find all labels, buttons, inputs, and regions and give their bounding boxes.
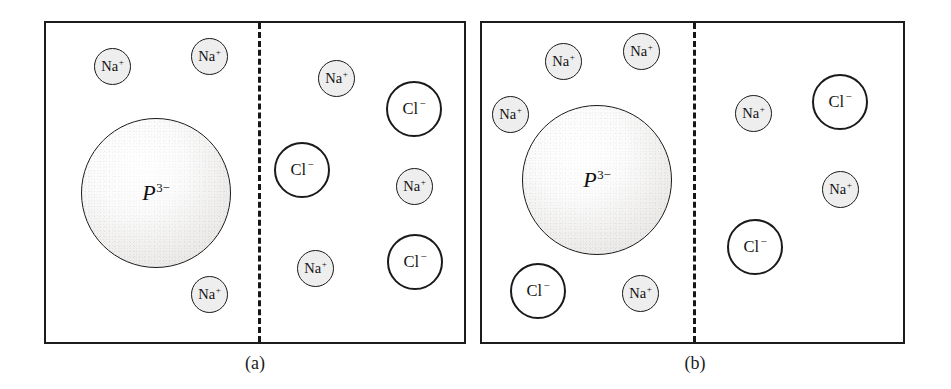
panel-b-container: Na+Na+Na+P3−Cl−Na+ Na+Cl−Na+Cl− — [480, 21, 905, 344]
ion-charge: 3− — [156, 181, 170, 195]
ion-charge: + — [570, 52, 575, 62]
ion-charge: + — [847, 180, 852, 190]
ion-label: Na+ — [629, 286, 652, 301]
ion-label: Cl− — [526, 283, 549, 300]
ion-charge: + — [322, 259, 327, 269]
ion-label: Na+ — [829, 182, 852, 197]
panel-a-caption: (a) — [225, 353, 285, 374]
sodium-ion: Na+ — [492, 96, 529, 133]
sodium-ion: Na+ — [318, 60, 355, 97]
ion-label: P3− — [142, 182, 170, 204]
ion-charge: + — [216, 47, 221, 57]
protein-ion: P3− — [81, 118, 231, 268]
chloride-ion: Cl− — [727, 219, 783, 275]
ion-label: Cl− — [402, 101, 425, 118]
ion-charge: + — [517, 105, 522, 115]
chloride-ion: Cl− — [387, 234, 443, 290]
ion-label: Cl− — [743, 239, 766, 256]
protein-ion: P3− — [522, 105, 672, 255]
chloride-ion: Cl− — [386, 81, 442, 137]
ion-label: Cl− — [828, 94, 851, 111]
ion-charge: − — [419, 97, 425, 109]
ion-charge: + — [119, 57, 124, 67]
ion-charge: − — [307, 158, 313, 170]
ion-charge: + — [421, 177, 426, 187]
semipermeable-membrane-a — [258, 23, 261, 342]
chloride-ion: Cl− — [510, 263, 566, 319]
ion-charge: − — [760, 235, 766, 247]
sodium-ion: Na+ — [545, 43, 582, 80]
sodium-ion: Na+ — [822, 171, 859, 208]
ion-label: Na+ — [403, 179, 426, 194]
ion-charge: − — [420, 250, 426, 262]
panel-b-caption: (b) — [665, 353, 725, 374]
ion-label: Cl− — [290, 162, 313, 179]
ion-charge: + — [647, 284, 652, 294]
chloride-ion: Cl− — [812, 74, 868, 130]
sodium-ion: Na+ — [623, 33, 660, 70]
ion-charge: − — [845, 90, 851, 102]
ion-label: Na+ — [304, 261, 327, 276]
sodium-ion: Na+ — [297, 250, 334, 287]
ion-label: Na+ — [742, 106, 765, 121]
sodium-ion: Na+ — [735, 95, 772, 132]
ion-charge: 3− — [597, 168, 611, 182]
sodium-ion: Na+ — [94, 48, 131, 85]
panel-a-container: Na+Na+P3−Na+ Na+Cl−Cl−Na+Na+Cl− — [44, 21, 466, 344]
sodium-ion: Na+ — [191, 38, 228, 75]
chloride-ion: Cl− — [274, 142, 330, 198]
ion-charge: + — [648, 42, 653, 52]
ion-label: Na+ — [499, 107, 522, 122]
ion-charge: − — [543, 279, 549, 291]
sodium-ion: Na+ — [396, 168, 433, 205]
semipermeable-membrane-b — [693, 23, 696, 342]
ion-label: Na+ — [630, 44, 653, 59]
ion-label: Na+ — [325, 71, 348, 86]
ion-charge: + — [216, 285, 221, 295]
sodium-ion: Na+ — [622, 275, 659, 312]
figure-root: Na+Na+P3−Na+ Na+Cl−Cl−Na+Na+Cl− Na+Na+Na… — [0, 0, 951, 389]
sodium-ion: Na+ — [191, 276, 228, 313]
ion-label: Na+ — [101, 59, 124, 74]
ion-label: Na+ — [198, 49, 221, 64]
ion-label: Na+ — [552, 54, 575, 69]
ion-label: Cl− — [403, 254, 426, 271]
ion-label: Na+ — [198, 287, 221, 302]
ion-charge: + — [760, 104, 765, 114]
ion-label: P3− — [583, 169, 611, 191]
ion-charge: + — [343, 69, 348, 79]
